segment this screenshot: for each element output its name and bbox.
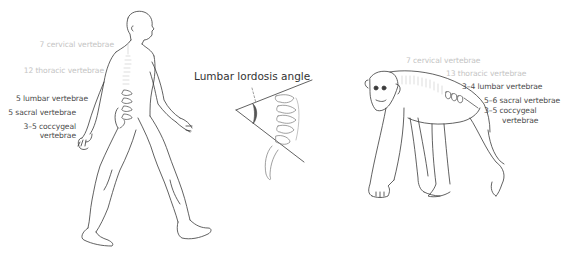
human-lumbar-label: 5 lumbar vertebrae	[4, 94, 88, 103]
chimp-coccygeal-label-line1: 3–5 coccygeal	[484, 106, 537, 115]
chimp-lumbar-label: 3–4 lumbar vertebrae	[462, 82, 542, 91]
human-cervical-label: 7 cervical vertebrae	[30, 40, 114, 49]
human-coccygeal-label-line1: 3–5 coccygeal	[0, 122, 76, 131]
human-coccygeal-label-line2: vertebrae	[0, 131, 76, 140]
chimp-sacral-label: 5–6 sacral vertebrae	[484, 96, 560, 105]
lordosis-inset	[236, 80, 312, 180]
chimp-thoracic-label: 13 thoracic vertebrae	[446, 69, 526, 78]
human-thoracic-label: 12 thoracic vertebrae	[20, 66, 104, 75]
lordosis-angle-title: Lumbar lordosis angle	[194, 70, 310, 82]
diagram-canvas: 7 cervical vertebrae 12 thoracic vertebr…	[0, 0, 568, 257]
chimp-coccygeal-label-line2: vertebrae	[502, 116, 538, 125]
chimp-cervical-label: 7 cervical vertebrae	[406, 56, 480, 65]
human-sacral-label: 5 sacral vertebrae	[0, 108, 76, 117]
illustration	[0, 0, 568, 257]
